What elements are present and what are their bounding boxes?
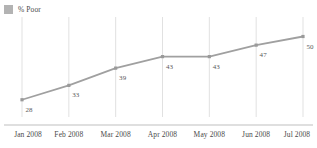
x-axis-tick-label: Feb 2008 (54, 130, 83, 139)
plot-svg (0, 17, 317, 127)
data-point-marker (114, 67, 117, 70)
legend-swatch-percent-poor (4, 5, 13, 14)
legend-label-percent-poor: % Poor (18, 5, 41, 14)
data-point-label: 33 (72, 91, 79, 99)
gridlines (22, 17, 303, 117)
data-point-label: 39 (119, 74, 126, 82)
x-axis-tick-label: Mar 2008 (101, 130, 131, 139)
x-axis-tick-label: Apr 2008 (148, 130, 177, 139)
data-point-marker (301, 35, 304, 38)
data-point-marker (161, 55, 164, 58)
line-chart: % Poor 28333943434750 Jan 2008Feb 2008Ma… (0, 0, 317, 148)
chart-legend: % Poor (4, 3, 41, 15)
x-axis-tick-label: Jun 2008 (242, 130, 270, 139)
plot-area (0, 17, 317, 127)
data-point-label: 28 (25, 106, 32, 114)
x-axis-tick-labels: Jan 2008Feb 2008Mar 2008Apr 2008May 2008… (0, 130, 317, 144)
x-axis-tick-label: May 2008 (194, 130, 225, 139)
x-axis-tick-label: Jan 2008 (14, 130, 42, 139)
x-axis-tick-label: Jul 2008 (284, 130, 310, 139)
data-point-label: 47 (260, 51, 267, 59)
data-point-label: 50 (306, 43, 313, 51)
data-point-marker (20, 98, 23, 101)
data-point-marker (67, 84, 70, 87)
data-point-label: 43 (166, 63, 173, 71)
data-point-marker (255, 44, 258, 47)
data-point-marker (208, 55, 211, 58)
data-point-label: 43 (213, 63, 220, 71)
